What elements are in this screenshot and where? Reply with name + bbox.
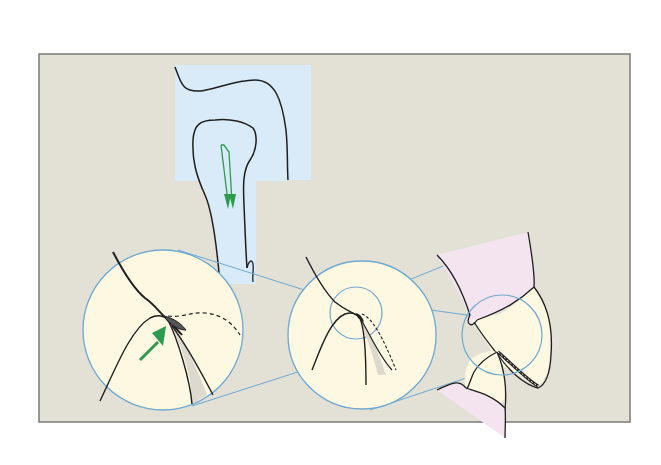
anatomy-diagram bbox=[0, 0, 661, 465]
magnified-contact-large bbox=[83, 250, 243, 410]
diagram-stage bbox=[0, 0, 661, 465]
